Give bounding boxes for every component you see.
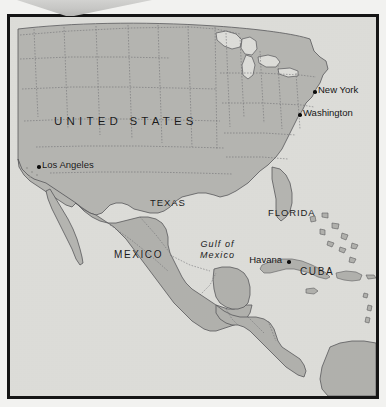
city-label-los-angeles: Los Angeles: [42, 159, 94, 170]
city-label-washington: Washington: [303, 107, 353, 118]
city-dot-icon: [37, 165, 41, 169]
city-label-havana: Havana: [249, 254, 282, 265]
city-label-new-york: New York: [318, 84, 358, 95]
city-dot-icon: [287, 260, 291, 264]
map-screenshot: .land { fill:#b4b4b0; stroke:#58585a; st…: [0, 0, 386, 407]
map-frame: .land { fill:#b4b4b0; stroke:#58585a; st…: [7, 14, 379, 399]
city-dot-icon: [313, 90, 317, 94]
island-puerto-rico: [366, 275, 376, 279]
map-canvas: .land { fill:#b4b4b0; stroke:#58585a; st…: [10, 17, 376, 396]
city-dot-icon: [298, 113, 302, 117]
